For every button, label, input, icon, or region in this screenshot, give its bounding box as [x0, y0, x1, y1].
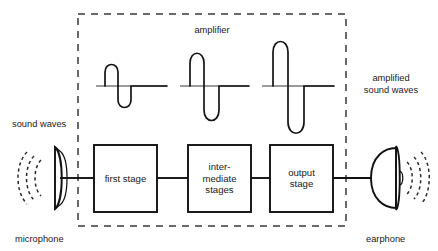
stage-label-output-line1: output	[288, 167, 315, 178]
stage-label-output-line2: stage	[290, 178, 313, 189]
amplified-wave-arc-1	[407, 162, 412, 194]
sound-wave-arc-1	[35, 160, 41, 196]
waveform-1-group	[96, 65, 167, 108]
waveform-3-trace	[273, 42, 334, 134]
stage-label-first-stage: first stage	[105, 173, 147, 184]
amplified-wave-arc-3	[421, 152, 429, 204]
stage-label-intermediate-line1: inter-	[209, 161, 231, 172]
sound-wave-arc-2	[27, 156, 35, 200]
amplified-sound-waves-label-line2: sound waves	[364, 85, 419, 95]
sound-waves-incoming-arcs	[18, 152, 41, 204]
earphone-symbol[interactable]	[371, 146, 403, 210]
microphone-symbol[interactable]	[55, 147, 67, 209]
amplified-sound-waves-label-line1: amplified	[372, 73, 409, 83]
sound-waves-label: sound waves	[12, 119, 67, 129]
amplified-wave-arc-2	[414, 157, 421, 199]
microphone-caption: microphone	[15, 234, 64, 244]
stage-label-intermediate-line2: mediate	[202, 173, 236, 184]
earphone-dome	[371, 148, 396, 208]
sound-wave-arc-3	[18, 152, 27, 204]
diagram-canvas: first stage inter- mediate stages output…	[0, 0, 438, 251]
waveform-3-group	[262, 42, 334, 134]
waveform-2-group	[180, 53, 249, 120]
sound-waves-outgoing-arcs	[407, 152, 429, 204]
stage-label-intermediate-line3: stages	[205, 184, 233, 195]
earphone-caption: earphone	[366, 234, 405, 244]
amplifier-block-diagram: first stage inter- mediate stages output…	[0, 0, 438, 251]
amplifier-title-label: amplifier	[194, 25, 229, 35]
